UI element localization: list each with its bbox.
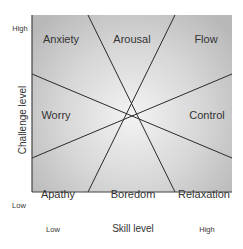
region-worry: Worry (41, 109, 70, 121)
x-axis-title: Skill level (112, 223, 154, 234)
region-anxiety: Anxiety (43, 33, 79, 45)
flow-diagram: Anxiety Arousal Flow Worry Control Apath… (0, 0, 243, 249)
region-relaxation: Relaxation (178, 188, 230, 200)
region-apathy: Apathy (41, 188, 75, 200)
y-axis-title: Challenge level (17, 86, 28, 154)
x-axis-low-label: Low (46, 225, 60, 234)
region-control: Control (189, 109, 224, 121)
y-axis-low-label: Low (12, 201, 26, 210)
region-flow: Flow (194, 33, 217, 45)
region-arousal: Arousal (113, 33, 150, 45)
x-axis-high-label: High (199, 225, 214, 234)
region-boredom: Boredom (111, 188, 156, 200)
y-axis-high-label: High (12, 24, 27, 33)
